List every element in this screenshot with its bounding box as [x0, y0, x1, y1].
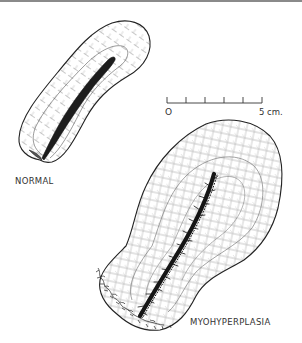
- myohyperplasia-uterus-drawing: [96, 120, 282, 330]
- scale-bar-end-label: 5 cm.: [259, 107, 283, 117]
- myohyperplasia-outer-wall: [100, 120, 282, 330]
- normal-label: NORMAL: [15, 176, 54, 186]
- uterus-comparison-illustration: [0, 0, 302, 343]
- normal-uterus-drawing: [19, 21, 150, 162]
- scale-bar-start-label: O: [165, 107, 172, 117]
- scale-bar: [167, 97, 262, 103]
- myohyperplasia-label: MYOHYPERPLASIA: [190, 317, 271, 327]
